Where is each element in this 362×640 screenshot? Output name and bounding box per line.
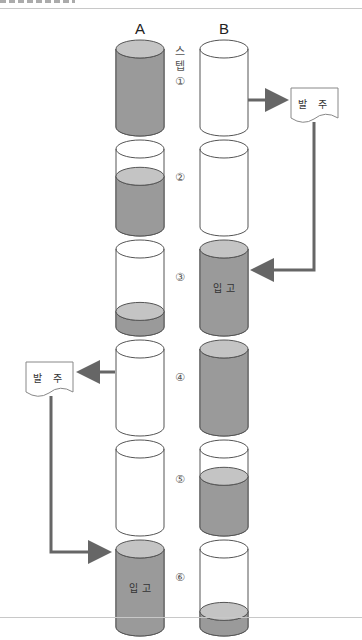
tank-a-step-4	[116, 340, 164, 436]
order-document-right-label: 발 주	[291, 96, 338, 111]
tank-b-step-3: 입 고	[200, 240, 248, 336]
tank-a-step-2	[116, 140, 164, 236]
tank-a-step-3	[116, 240, 164, 336]
order-document-left-label: 발 주	[26, 370, 73, 385]
tank-b-step-4	[200, 340, 248, 436]
tank-a-step-5	[116, 440, 164, 536]
bottom-divider	[0, 617, 362, 618]
tank-a-step-1	[116, 40, 164, 136]
receipt-label: 입 고	[129, 582, 150, 594]
receipt-label: 입 고	[213, 282, 234, 294]
arrow-order-to-b-receipt	[256, 122, 314, 270]
tank-a-step-6: 입 고	[116, 540, 164, 636]
tank-b-step-5	[200, 440, 248, 536]
tank-b-step-2	[200, 140, 248, 236]
tank-b-step-1	[200, 40, 248, 136]
arrow-order-to-a-receipt	[51, 396, 106, 552]
tank-b-step-6	[200, 540, 248, 636]
